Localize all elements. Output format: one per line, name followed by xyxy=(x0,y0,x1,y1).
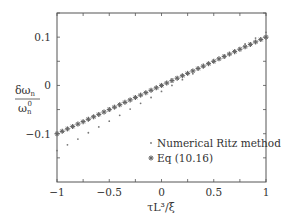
data-point xyxy=(211,59,216,64)
data-point xyxy=(182,79,184,81)
data-point xyxy=(65,126,70,131)
x-tick-label: 1 xyxy=(263,186,270,198)
y-label-numerator: δωn xyxy=(15,84,36,98)
data-point xyxy=(264,35,269,40)
data-point xyxy=(91,114,96,119)
data-point xyxy=(107,107,112,112)
data-point xyxy=(60,129,65,134)
data-point xyxy=(112,105,117,110)
data-point xyxy=(255,37,257,39)
data-point xyxy=(86,117,91,122)
legend-star-icon xyxy=(149,156,154,161)
data-point xyxy=(253,39,258,44)
x-tick-label: 0.5 xyxy=(205,186,222,198)
data-point xyxy=(117,102,122,107)
data-point xyxy=(180,73,185,78)
data-point xyxy=(75,122,80,127)
data-point xyxy=(143,90,148,95)
data-point xyxy=(154,85,159,90)
data-point xyxy=(265,31,267,33)
data-point xyxy=(196,66,201,71)
legend: Numerical Ritz method Eq (10.16) xyxy=(149,137,282,164)
data-point xyxy=(171,85,173,87)
data-point xyxy=(108,120,110,122)
data-point xyxy=(248,42,253,47)
data-point xyxy=(122,100,127,105)
data-point xyxy=(87,132,89,134)
axis-ticks: −1−0.500.51−0.100.1 xyxy=(26,13,270,198)
x-tick-label: 0 xyxy=(158,186,165,198)
data-point xyxy=(222,54,227,59)
y-tick-label: 0 xyxy=(44,79,51,91)
data-point xyxy=(128,97,133,102)
data-point xyxy=(67,144,69,146)
y-tick-label: 0.1 xyxy=(34,31,51,43)
data-point xyxy=(232,49,237,54)
data-point xyxy=(185,71,190,76)
data-point xyxy=(206,61,211,66)
data-point xyxy=(119,114,121,116)
data-point xyxy=(169,78,174,83)
data-point xyxy=(98,126,100,128)
data-point xyxy=(149,88,154,93)
data-point xyxy=(150,97,152,99)
data-point xyxy=(70,124,75,129)
data-point xyxy=(190,68,195,73)
data-point xyxy=(102,109,107,114)
data-point xyxy=(159,83,164,88)
chart: −1−0.500.51−0.100.1 Numerical Ritz metho… xyxy=(0,0,281,217)
x-tick-label: −0.5 xyxy=(97,186,123,198)
legend-dot-icon xyxy=(150,142,152,144)
series-eq-10-16 xyxy=(55,35,269,137)
data-point xyxy=(77,138,79,140)
data-point xyxy=(133,95,138,100)
data-point xyxy=(138,93,143,98)
data-point xyxy=(129,108,131,110)
y-tick-label: −0.1 xyxy=(26,128,52,140)
data-point xyxy=(227,52,232,57)
legend-label-ritz: Numerical Ritz method xyxy=(157,137,281,149)
data-point xyxy=(56,150,58,152)
data-point xyxy=(140,102,142,104)
data-point xyxy=(237,47,242,52)
data-point xyxy=(81,119,86,124)
data-point xyxy=(55,131,60,136)
legend-label-eq: Eq (10.16) xyxy=(157,152,213,164)
data-point xyxy=(175,76,180,81)
data-point xyxy=(258,37,263,42)
data-point xyxy=(96,112,101,117)
data-point xyxy=(243,44,248,49)
x-axis-label: τL³/ξ xyxy=(147,201,175,214)
y-axis-label: δωn ωn0 xyxy=(15,84,40,116)
data-point xyxy=(164,81,169,86)
x-tick-label: −1 xyxy=(49,186,64,198)
y-label-denominator: ωn0 xyxy=(18,100,32,116)
data-point xyxy=(216,56,221,61)
data-point xyxy=(201,64,206,69)
data-point xyxy=(161,91,163,93)
